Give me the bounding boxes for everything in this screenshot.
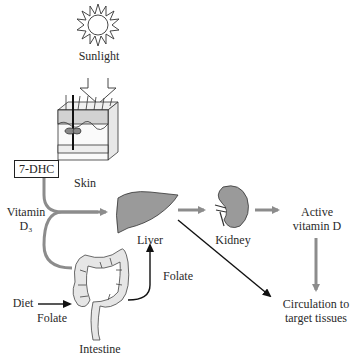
sunlight-arrow <box>80 78 116 104</box>
liver-icon <box>117 192 179 233</box>
circulation-line1: Circulation to <box>272 298 359 311</box>
intestine-icon <box>73 249 129 340</box>
diet-label: Diet <box>8 297 38 310</box>
intestine-label: Intestine <box>72 343 128 356</box>
folate-out-label: Folate <box>158 270 198 283</box>
kidney-label: Kidney <box>208 234 258 247</box>
folate-in-label: Folate <box>32 312 72 325</box>
liver-label: Liver <box>130 234 170 247</box>
vitamin-d-pathway-diagram: Sunlight 7-DHC Skin Vitamin D₃ Liver Kid… <box>0 0 359 362</box>
intestine-to-liver-path <box>44 212 72 268</box>
vitamin-d3-label-line2: D₃ <box>6 220 46 233</box>
skin-section-icon <box>58 95 118 160</box>
active-vitamin-d-line1: Active <box>288 206 346 219</box>
skin-label: Skin <box>65 177 105 190</box>
arrow-folate-intestine-to-liver <box>128 245 150 300</box>
sun-icon <box>77 4 119 46</box>
vitamin-d3-label-line1: Vitamin <box>6 206 46 219</box>
arrow-liver-to-circulation <box>178 220 270 296</box>
active-vitamin-d-line2: vitamin D <box>288 220 346 233</box>
kidney-icon <box>215 186 248 228</box>
sunlight-label: Sunlight <box>74 50 124 63</box>
7-dhc-box: 7-DHC <box>14 160 59 178</box>
circulation-line2: target tissues <box>272 312 359 325</box>
